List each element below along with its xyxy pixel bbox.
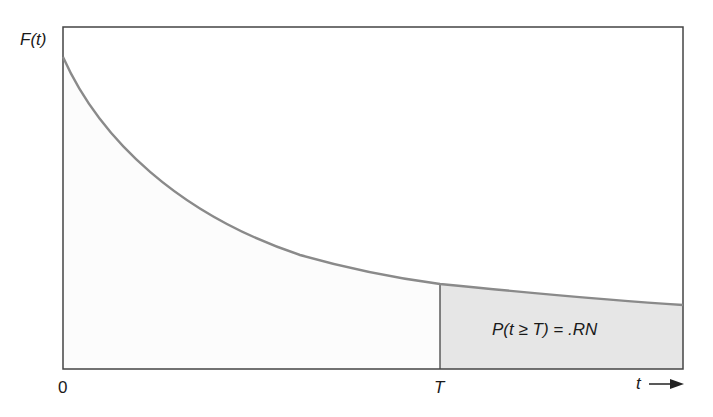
left-area-fill — [63, 57, 440, 369]
arrow-right-icon — [670, 379, 684, 389]
x-axis-label: t — [636, 374, 641, 394]
chart-canvas — [0, 0, 713, 417]
x-threshold-label: T — [434, 378, 444, 398]
region-probability-label: P(t ≥ T) = .RN — [492, 320, 597, 340]
x-origin-label: 0 — [58, 378, 67, 398]
y-axis-label: F(t) — [20, 30, 46, 50]
